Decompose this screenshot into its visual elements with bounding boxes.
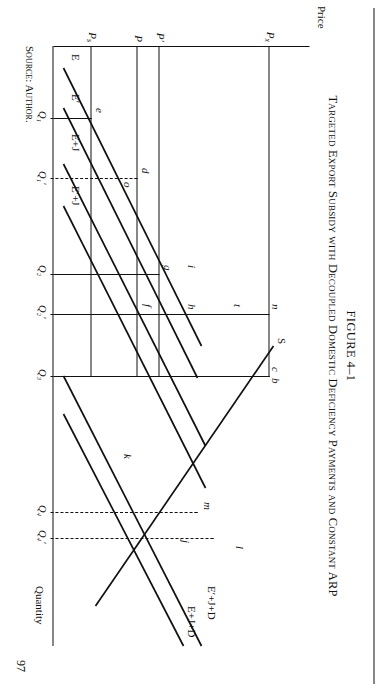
point-label-b: b [269,378,281,384]
curve-label-Eprime-plus-J-plus-D: E′+J+D [205,586,217,620]
curve-EJD-line [63,376,201,646]
page-top-rule [373,8,374,684]
curve-EJ-line [63,164,205,446]
price-axis-label: Price [315,6,327,29]
point-label-i: i [185,265,197,268]
figure-title: Targeted Export Subsidy with Decoupled D… [324,0,339,692]
price-tick-Px: Px [262,8,276,42]
point-label-c: c [269,367,281,372]
quantity-tick-Q2-prime: Q₂′ [36,305,47,319]
point-label-o: o [121,182,133,188]
price-tick-P: P [132,8,144,42]
quantity-tick-Q2: Q₂ [36,265,47,276]
point-label-t: t [231,304,243,307]
point-label-n: n [269,304,281,310]
price-tick-P-prime: P′ [154,8,166,42]
point-label-m: m [201,502,213,510]
curve-EprimeJD-line [63,414,183,646]
figure-number: FIGURE 4–1 [342,0,357,692]
quantity-tick-Q1: Q₁ [36,111,47,122]
point-label-g: g [161,265,173,271]
curve-label-E-prime: E′ [69,94,81,103]
point-label-h: h [185,304,197,310]
curve-label-E: E [69,54,81,61]
point-label-l: l [233,546,245,549]
quantity-axis-label: Quantity [33,586,45,625]
page-folio: 97 [12,660,27,672]
figure-page: FIGURE 4–1 Targeted Export Subsidy with … [0,0,379,692]
price-tick-Ps: Ps [84,8,98,42]
point-label-f: f [141,304,153,307]
quantity-tick-Q1-prime: Q₁′ [36,171,47,185]
point-label-e: e [93,108,105,113]
curve-label-S: S [275,338,287,344]
point-label-j: j [179,540,191,543]
point-label-d: d [139,168,151,174]
curve-S-line [95,346,273,606]
curve-label-Eprime-plus-J: E′+J [69,186,81,206]
curve-label-E-plus-J-plus-D: E+J+D [185,606,197,637]
quantity-tick-Q4: Q₄ [36,505,47,516]
curve-label-E-plus-J: E+J [69,134,81,151]
figure-source: Source: Author. [23,46,35,123]
quantity-tick-Q4-prime: Q₄′ [36,530,47,544]
point-label-k: k [121,454,133,459]
chart-plot-area: Price Quantity Px P′ P Ps Q₁ Q₁′ Q₂ Q₂′ … [53,46,309,646]
quantity-tick-Q3: Q₃ [36,369,47,380]
curve-overlay [53,46,309,646]
curve-E-line [63,68,201,346]
